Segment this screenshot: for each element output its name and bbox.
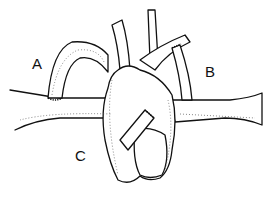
brachiocephalic-vessels	[112, 20, 130, 70]
vascular-shunt-illustration: A B C	[0, 0, 272, 209]
label-b: B	[205, 64, 215, 79]
label-a: A	[32, 56, 42, 71]
anatomy-drawing	[0, 0, 272, 209]
label-c: C	[75, 148, 86, 163]
shunt-b	[172, 45, 192, 100]
